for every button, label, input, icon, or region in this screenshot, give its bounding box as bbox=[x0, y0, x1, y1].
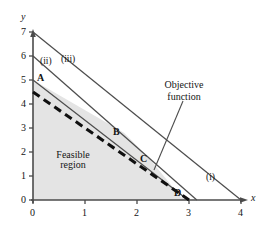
y-tick-6: 6 bbox=[21, 51, 26, 61]
y-tick-4: 4 bbox=[21, 99, 26, 109]
x-tick-0: 0 bbox=[30, 208, 35, 218]
x-tick-1: 1 bbox=[82, 208, 87, 218]
vertex-label-c: C bbox=[140, 154, 147, 164]
line-label-iii: (iii) bbox=[61, 55, 75, 65]
x-tick-2: 2 bbox=[134, 208, 139, 218]
x-tick-4: 4 bbox=[238, 208, 243, 218]
y-tick-2: 2 bbox=[21, 147, 26, 157]
feasible-region-label: Feasible region bbox=[44, 150, 102, 170]
objective-function-leader-line bbox=[154, 101, 183, 170]
objective-function-label-line2: function bbox=[152, 91, 216, 103]
figure-linear-programming-feasible-region: 7 6 5 4 3 2 1 0 0 1 2 3 4 y x (ii) (iii)… bbox=[0, 0, 265, 233]
objective-function-label: Objective function bbox=[152, 79, 216, 102]
line-label-i: (i) bbox=[206, 173, 215, 183]
y-tick-3: 3 bbox=[21, 123, 26, 133]
line-label-ii: (ii) bbox=[40, 57, 52, 67]
objective-function-label-line1: Objective bbox=[152, 79, 216, 91]
x-axis-label: x bbox=[251, 193, 255, 203]
y-tick-1: 1 bbox=[21, 171, 26, 181]
vertex-label-d: D bbox=[174, 188, 181, 198]
vertex-label-b: B bbox=[113, 127, 120, 137]
feasible-region-label-line2: region bbox=[44, 160, 102, 170]
y-axis-label: y bbox=[21, 12, 25, 22]
y-tick-7: 7 bbox=[21, 27, 26, 37]
y-tick-5: 5 bbox=[21, 75, 26, 85]
y-tick-0: 0 bbox=[21, 195, 26, 205]
x-tick-3: 3 bbox=[186, 208, 191, 218]
vertex-label-a: A bbox=[37, 73, 44, 83]
plot-canvas bbox=[0, 0, 265, 233]
